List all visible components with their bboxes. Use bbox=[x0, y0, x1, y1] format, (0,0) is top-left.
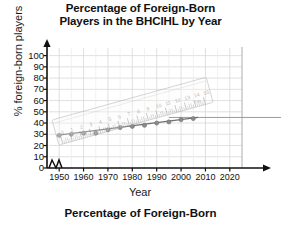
data-point bbox=[142, 123, 146, 127]
data-point bbox=[167, 120, 171, 124]
chart-figure: Percentage of Foreign-Born Players in th… bbox=[0, 0, 281, 228]
data-point bbox=[155, 121, 159, 125]
data-point bbox=[191, 116, 195, 120]
data-point bbox=[179, 118, 183, 122]
figure-caption: Percentage of Foreign-Born bbox=[0, 207, 281, 219]
chart-plot-area: 0123456789101112131415cm bbox=[0, 0, 281, 228]
